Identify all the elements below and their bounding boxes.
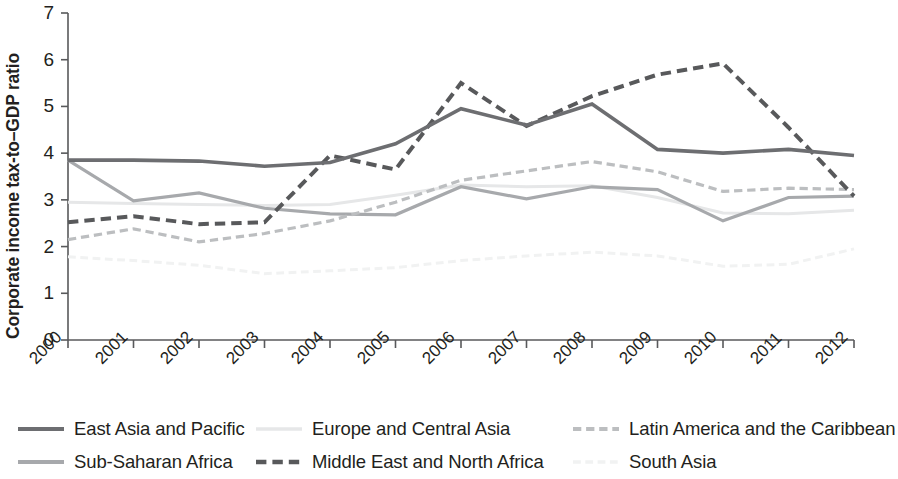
y-axis-tick-label: 4: [28, 143, 54, 162]
y-axis-tick-label: 2: [28, 237, 54, 256]
legend-label: Latin America and the Caribbean: [629, 418, 895, 440]
y-axis-tick-label: 5: [28, 96, 54, 115]
chart-figure: Corporate income tax-to–GDP ratio 012345…: [0, 0, 898, 479]
legend-row: East Asia and PacificEurope and Central …: [0, 412, 898, 445]
y-axis-label: Corporate income tax-to–GDP ratio: [0, 26, 26, 366]
y-axis-tick-label: 7: [28, 3, 54, 22]
plot-area: [0, 0, 898, 479]
legend-line-swatch-icon: [573, 421, 619, 437]
legend-item-europe-and-central-asia[interactable]: Europe and Central Asia: [256, 412, 510, 445]
legend-line-swatch-icon: [573, 454, 619, 470]
legend-label: East Asia and Pacific: [74, 418, 245, 440]
legend-label: Sub-Saharan Africa: [74, 451, 233, 473]
legend-item-latin-america-and-the-caribbean[interactable]: Latin America and the Caribbean: [573, 412, 895, 445]
legend-row: Sub-Saharan AfricaMiddle East and North …: [0, 445, 898, 478]
y-axis-tick-label: 6: [28, 50, 54, 69]
y-axis-tick-label: 3: [28, 190, 54, 209]
series-line: [68, 104, 854, 166]
legend-item-sub-saharan-africa[interactable]: Sub-Saharan Africa: [18, 445, 233, 478]
series-line: [68, 249, 854, 274]
legend-item-middle-east-and-north-africa[interactable]: Middle East and North Africa: [256, 445, 544, 478]
chart-legend: East Asia and PacificEurope and Central …: [0, 412, 898, 479]
legend-line-swatch-icon: [18, 454, 64, 470]
series-line: [68, 63, 854, 224]
legend-item-south-asia[interactable]: South Asia: [573, 445, 716, 478]
series-line: [68, 162, 854, 242]
legend-label: Europe and Central Asia: [312, 418, 510, 440]
legend-line-swatch-icon: [256, 421, 302, 437]
legend-item-east-asia-and-pacific[interactable]: East Asia and Pacific: [18, 412, 245, 445]
legend-label: South Asia: [629, 451, 716, 473]
legend-line-swatch-icon: [256, 454, 302, 470]
legend-line-swatch-icon: [18, 421, 64, 437]
legend-label: Middle East and North Africa: [312, 451, 544, 473]
y-axis-tick-label: 1: [28, 283, 54, 302]
